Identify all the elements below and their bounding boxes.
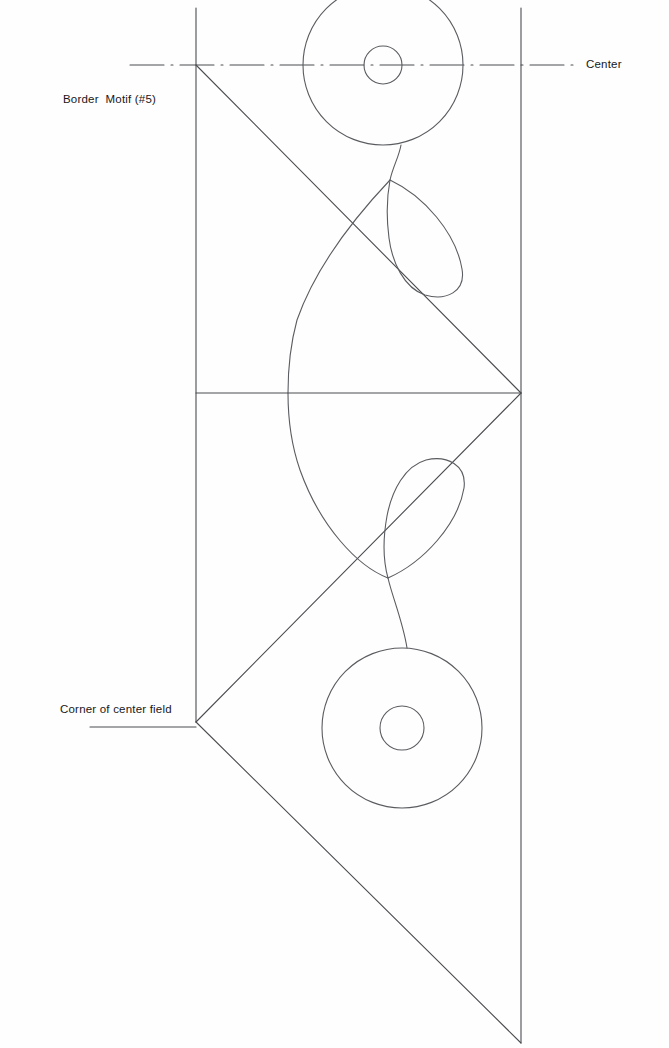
lower-rosette-inner-circle xyxy=(380,706,424,750)
border-motif-diagram xyxy=(0,0,669,1048)
corner-of-center-field-label: Corner of center field xyxy=(60,703,172,715)
upper-rosette-outer-circle xyxy=(303,0,463,145)
central-lens-upper xyxy=(288,180,390,393)
construction-geometry xyxy=(90,8,578,1043)
border-motif-label: Border Motif (#5) xyxy=(63,93,156,105)
upper-stem xyxy=(390,145,401,180)
central-lens-lower xyxy=(288,393,388,578)
upper-petal xyxy=(387,180,462,297)
lower-stem xyxy=(388,578,407,648)
drawing-canvas: Center Border Motif (#5) Corner of cente… xyxy=(0,0,669,1048)
upper-diagonal xyxy=(196,65,521,393)
motif-geometry xyxy=(288,0,482,808)
lower-rosette-outer-circle xyxy=(322,648,482,808)
lower-petal xyxy=(384,459,464,578)
center-label: Center xyxy=(586,58,622,70)
mid-diagonal xyxy=(196,393,521,722)
lower-diagonal xyxy=(196,722,521,1043)
